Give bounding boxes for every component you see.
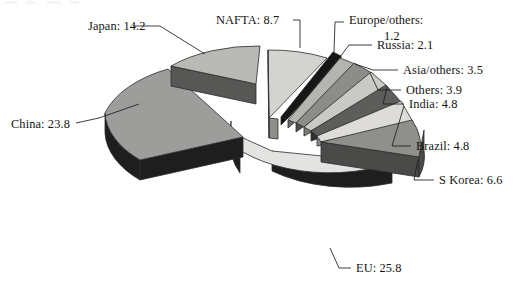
leader-russia [340, 45, 372, 57]
leader-europe-others [334, 22, 344, 52]
pie-chart-figure: Japan: 14.2 China: 23.8 NAFTA: 8.7 Europ… [0, 0, 527, 282]
label-others: Others: 3.9 [406, 83, 462, 97]
label-china: China: 23.8 [11, 117, 70, 131]
label-eu: EU: 25.8 [356, 261, 402, 275]
label-europe-others-line1: Europe/others: [349, 13, 423, 27]
label-russia: Russia: 2.1 [377, 38, 433, 52]
leader-eu [330, 248, 351, 268]
scan-artifact [4, 1, 79, 4]
label-japan: Japan: 14.2 [88, 19, 146, 33]
label-india: India: 4.8 [409, 97, 458, 111]
label-nafta: NAFTA: 8.7 [216, 13, 279, 27]
pie-chart-svg: Japan: 14.2 China: 23.8 NAFTA: 8.7 Europ… [0, 0, 527, 282]
leader-nafta [293, 20, 300, 48]
label-asia-others: Asia/others: 3.5 [403, 63, 483, 77]
label-s-korea: S Korea: 6.6 [439, 173, 503, 187]
label-brazil: Brazil: 4.8 [416, 139, 469, 153]
